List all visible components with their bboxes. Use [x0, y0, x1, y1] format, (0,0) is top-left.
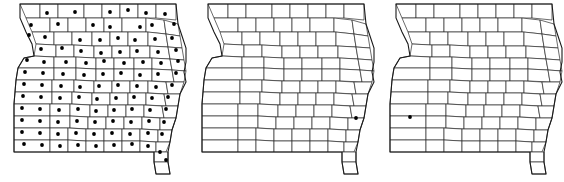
- dot-layer-middle: [354, 116, 358, 120]
- county-dot-marker: [38, 119, 42, 123]
- county-dot-marker: [59, 84, 63, 88]
- county-dot-marker: [166, 95, 170, 99]
- county-dot-marker: [22, 82, 26, 86]
- county-dot-marker: [172, 22, 176, 26]
- county-dot-marker: [40, 83, 44, 87]
- county-boundaries-left: [14, 4, 186, 174]
- county-dot-marker: [110, 131, 114, 135]
- county-dot-marker: [150, 23, 154, 27]
- county-dot-marker: [84, 61, 88, 65]
- dot-layer-right: [408, 115, 412, 119]
- county-dot-marker: [111, 119, 115, 123]
- county-dot-marker: [75, 119, 79, 123]
- county-dot-marker: [82, 73, 86, 77]
- county-dot-marker: [97, 84, 101, 88]
- county-dot-marker: [174, 48, 178, 52]
- county-dot-marker: [78, 38, 82, 42]
- county-dot-marker: [21, 94, 25, 98]
- county-dot-marker: [148, 108, 152, 112]
- county-dot-marker: [20, 118, 24, 122]
- county-dot-marker: [92, 132, 96, 136]
- county-dot-marker: [112, 143, 116, 147]
- county-dot-marker: [130, 107, 134, 111]
- county-dot-marker: [27, 33, 31, 37]
- county-dot-marker: [354, 116, 358, 120]
- county-dot-marker: [29, 23, 33, 27]
- county-dot-marker: [74, 131, 78, 135]
- county-dot-marker: [147, 119, 151, 123]
- county-dot-marker: [132, 95, 136, 99]
- county-dot-marker: [116, 83, 120, 87]
- county-dot-marker: [170, 83, 174, 87]
- county-dot-marker: [56, 120, 60, 124]
- county-dot-marker: [112, 108, 116, 112]
- county-dot-marker: [116, 36, 120, 40]
- county-dot-marker: [77, 95, 81, 99]
- county-dot-marker: [162, 120, 166, 124]
- county-dot-marker: [158, 150, 162, 154]
- county-dot-marker: [39, 47, 43, 51]
- county-dot-marker: [38, 131, 42, 135]
- county-dot-marker: [22, 142, 26, 146]
- county-dot-marker: [135, 49, 139, 53]
- county-dot-marker: [93, 120, 97, 124]
- county-dot-marker: [58, 96, 62, 100]
- county-dot-marker: [141, 60, 145, 64]
- county-dot-marker: [43, 35, 47, 39]
- map-panel-left: [0, 0, 188, 182]
- county-dot-marker: [153, 37, 157, 41]
- county-dot-marker: [94, 144, 98, 148]
- county-dot-marker: [126, 8, 130, 12]
- missouri-county-map-left: [0, 0, 188, 182]
- county-dot-marker: [130, 142, 134, 146]
- county-dot-marker: [20, 106, 24, 110]
- county-dot-marker: [95, 97, 99, 101]
- county-dot-marker: [159, 61, 163, 65]
- county-dot-marker: [119, 71, 123, 75]
- county-dot-marker: [133, 38, 137, 42]
- county-dot-marker: [99, 51, 103, 55]
- county-dot-marker: [170, 36, 174, 40]
- county-dot-marker: [160, 132, 164, 136]
- county-dot-marker: [101, 72, 105, 76]
- county-dot-marker: [60, 46, 64, 50]
- county-dot-marker: [156, 72, 160, 76]
- county-dot-marker: [56, 132, 60, 136]
- county-dot-marker: [38, 107, 42, 111]
- missouri-county-map-middle: [188, 0, 376, 182]
- county-dot-marker: [94, 109, 98, 113]
- county-dot-marker: [23, 70, 27, 74]
- county-dot-marker: [91, 23, 95, 27]
- county-dot-marker: [163, 12, 167, 16]
- county-dot-marker: [79, 49, 83, 53]
- county-dot-marker: [73, 10, 77, 14]
- county-dot-marker: [42, 60, 46, 64]
- map-panel-right: [376, 0, 564, 182]
- county-boundaries-middle: [202, 4, 374, 174]
- county-dot-marker: [122, 61, 126, 65]
- county-dot-marker: [78, 85, 82, 89]
- county-dot-marker: [135, 84, 139, 88]
- county-dot-marker: [408, 115, 412, 119]
- county-dot-marker: [156, 50, 160, 54]
- county-dot-marker: [56, 22, 60, 26]
- county-dot-marker: [102, 59, 106, 63]
- county-dot-marker: [128, 132, 132, 136]
- county-dot-marker: [164, 107, 168, 111]
- county-dot-marker: [98, 38, 102, 42]
- missouri-county-map-right: [376, 0, 564, 182]
- county-dot-marker: [144, 11, 148, 15]
- county-dot-marker: [164, 158, 168, 162]
- county-dot-marker: [154, 85, 158, 89]
- county-dot-marker: [174, 71, 178, 75]
- county-dot-marker: [129, 120, 133, 124]
- county-dot-marker: [61, 72, 65, 76]
- county-dot-marker: [41, 71, 45, 75]
- county-dot-marker: [39, 95, 43, 99]
- county-dot-marker: [108, 10, 112, 14]
- county-dot-marker: [138, 73, 142, 77]
- county-dot-marker: [118, 50, 122, 54]
- county-dot-marker: [76, 143, 80, 147]
- county-dot-marker: [114, 96, 118, 100]
- county-dot-marker: [150, 96, 154, 100]
